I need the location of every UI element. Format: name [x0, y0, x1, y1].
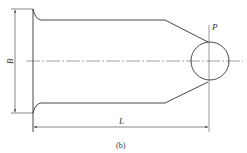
point-label: P — [211, 22, 218, 32]
figure-caption: (b) — [116, 141, 126, 150]
length-label: L — [118, 116, 124, 126]
width-label: B — [5, 58, 15, 64]
part-drawing: P B L (b) — [0, 0, 247, 153]
